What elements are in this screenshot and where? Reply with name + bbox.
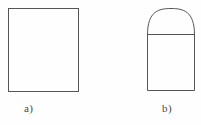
figure-label-a: a) bbox=[24, 102, 33, 114]
figure-label-b: b) bbox=[162, 102, 172, 114]
